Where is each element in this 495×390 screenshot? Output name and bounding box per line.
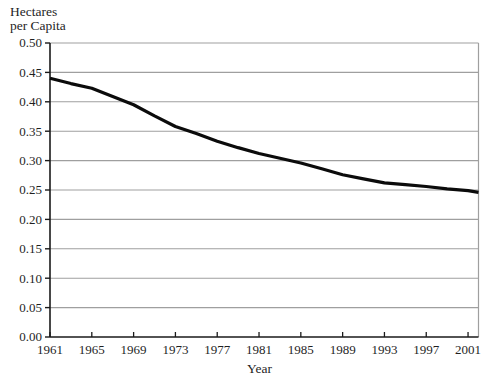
x-tick-label: 1981 [246,342,272,357]
x-tick-label: 1973 [162,342,188,357]
x-tick-label: 1985 [288,342,314,357]
y-tick-label: 0.35 [19,124,42,139]
x-tick-label: 1989 [330,342,356,357]
y-tick-label: 0.50 [19,35,42,50]
y-tick-label: 0.10 [19,271,42,286]
data-line [50,78,479,192]
chart-canvas: 0.000.050.100.150.200.250.300.350.400.45… [0,0,495,390]
x-tick-label: 1997 [413,342,440,357]
y-tick-label: 0.15 [19,241,42,256]
y-tick-label: 0.05 [19,300,42,315]
y-tick-label: 0.25 [19,182,42,197]
y-tick-label: 0.20 [19,212,42,227]
x-tick-label: 1969 [121,342,147,357]
x-tick-label: 1961 [37,342,63,357]
y-axis-title: Hectares per Capita [10,5,66,33]
x-tick-label: 1965 [79,342,105,357]
x-tick-label: 2001 [455,342,481,357]
x-axis-title: Year [247,361,272,377]
x-tick-label: 1993 [371,342,397,357]
x-tick-label: 1977 [204,342,231,357]
y-tick-label: 0.30 [19,153,42,168]
y-axis-title-line2: per Capita [10,19,66,33]
y-tick-label: 0.45 [19,65,42,80]
y-tick-label: 0.40 [19,94,42,109]
plot-area: 0.000.050.100.150.200.250.300.350.400.45… [0,0,495,390]
y-axis-title-line1: Hectares [10,5,66,19]
